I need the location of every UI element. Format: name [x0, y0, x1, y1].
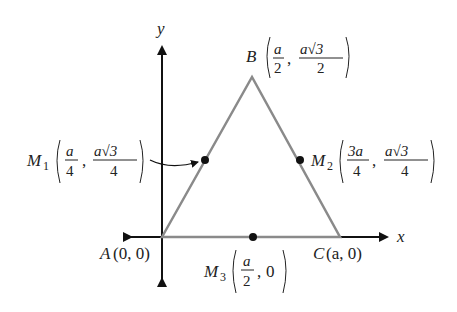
svg-text:a√3: a√3	[300, 41, 323, 57]
svg-text:4: 4	[401, 163, 409, 179]
svg-text:4: 4	[110, 163, 118, 179]
svg-text:a: a	[274, 41, 282, 57]
svg-text:,: ,	[82, 151, 86, 170]
svg-text:2: 2	[327, 159, 333, 173]
svg-text:2: 2	[317, 60, 325, 76]
svg-text:2: 2	[274, 60, 282, 76]
svg-text:a√3: a√3	[385, 143, 408, 159]
x-axis-label: x	[396, 227, 405, 246]
svg-text:3a: 3a	[347, 143, 363, 159]
svg-text:a: a	[243, 253, 251, 269]
point-m2	[296, 156, 304, 164]
label-b: B a 2 , a√3 2	[246, 37, 349, 78]
label-m3: M 3 a 2 , 0	[203, 250, 286, 293]
svg-text:4: 4	[353, 163, 361, 179]
svg-text:M: M	[203, 262, 219, 281]
m1-pointer-arrow	[150, 160, 198, 166]
svg-text:C: C	[313, 244, 325, 263]
label-m2: M 2 3a 4 , a√3 4	[310, 140, 434, 183]
point-m3	[249, 233, 257, 241]
svg-text:2: 2	[243, 273, 251, 289]
svg-text:,: ,	[372, 151, 376, 170]
svg-text:B: B	[246, 47, 257, 66]
label-a: A (0, 0)	[99, 244, 150, 263]
triangle-diagram: y x A (0, 0) C (a, 0) B a 2 , a√3 2 M 1 …	[0, 0, 457, 312]
svg-text:(a, 0): (a, 0)	[326, 244, 362, 263]
svg-text:,: ,	[257, 262, 261, 281]
point-m1	[201, 156, 209, 164]
svg-text:,: ,	[287, 49, 291, 68]
svg-text:4: 4	[66, 163, 74, 179]
label-m1: M 1 a 4 , a√3 4	[26, 140, 143, 183]
svg-text:a√3: a√3	[94, 143, 117, 159]
svg-text:M: M	[310, 151, 326, 170]
svg-text:(0, 0): (0, 0)	[113, 244, 150, 263]
y-axis-label: y	[155, 19, 165, 38]
svg-text:3: 3	[220, 270, 226, 284]
svg-text:1: 1	[43, 159, 49, 173]
label-c: C (a, 0)	[313, 244, 362, 263]
svg-text:M: M	[26, 151, 42, 170]
svg-text:a: a	[66, 143, 74, 159]
svg-text:A: A	[99, 244, 111, 263]
svg-text:0: 0	[266, 262, 275, 281]
